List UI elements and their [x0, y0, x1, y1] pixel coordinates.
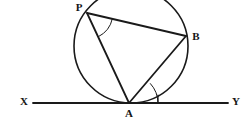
label-p: P — [76, 1, 83, 13]
label-a: A — [125, 107, 133, 119]
label-y: Y — [232, 95, 240, 107]
label-x: X — [20, 95, 28, 107]
geometry-figure: P B A X Y — [0, 0, 252, 136]
chord-pb — [87, 13, 186, 36]
geometry-canvas: P B A X Y — [0, 0, 252, 136]
circle-shape — [74, 0, 188, 103]
angle-arc-apb — [99, 19, 113, 37]
chord-ba — [129, 36, 186, 103]
angle-arc-bay — [150, 84, 158, 103]
label-b: B — [192, 30, 200, 42]
